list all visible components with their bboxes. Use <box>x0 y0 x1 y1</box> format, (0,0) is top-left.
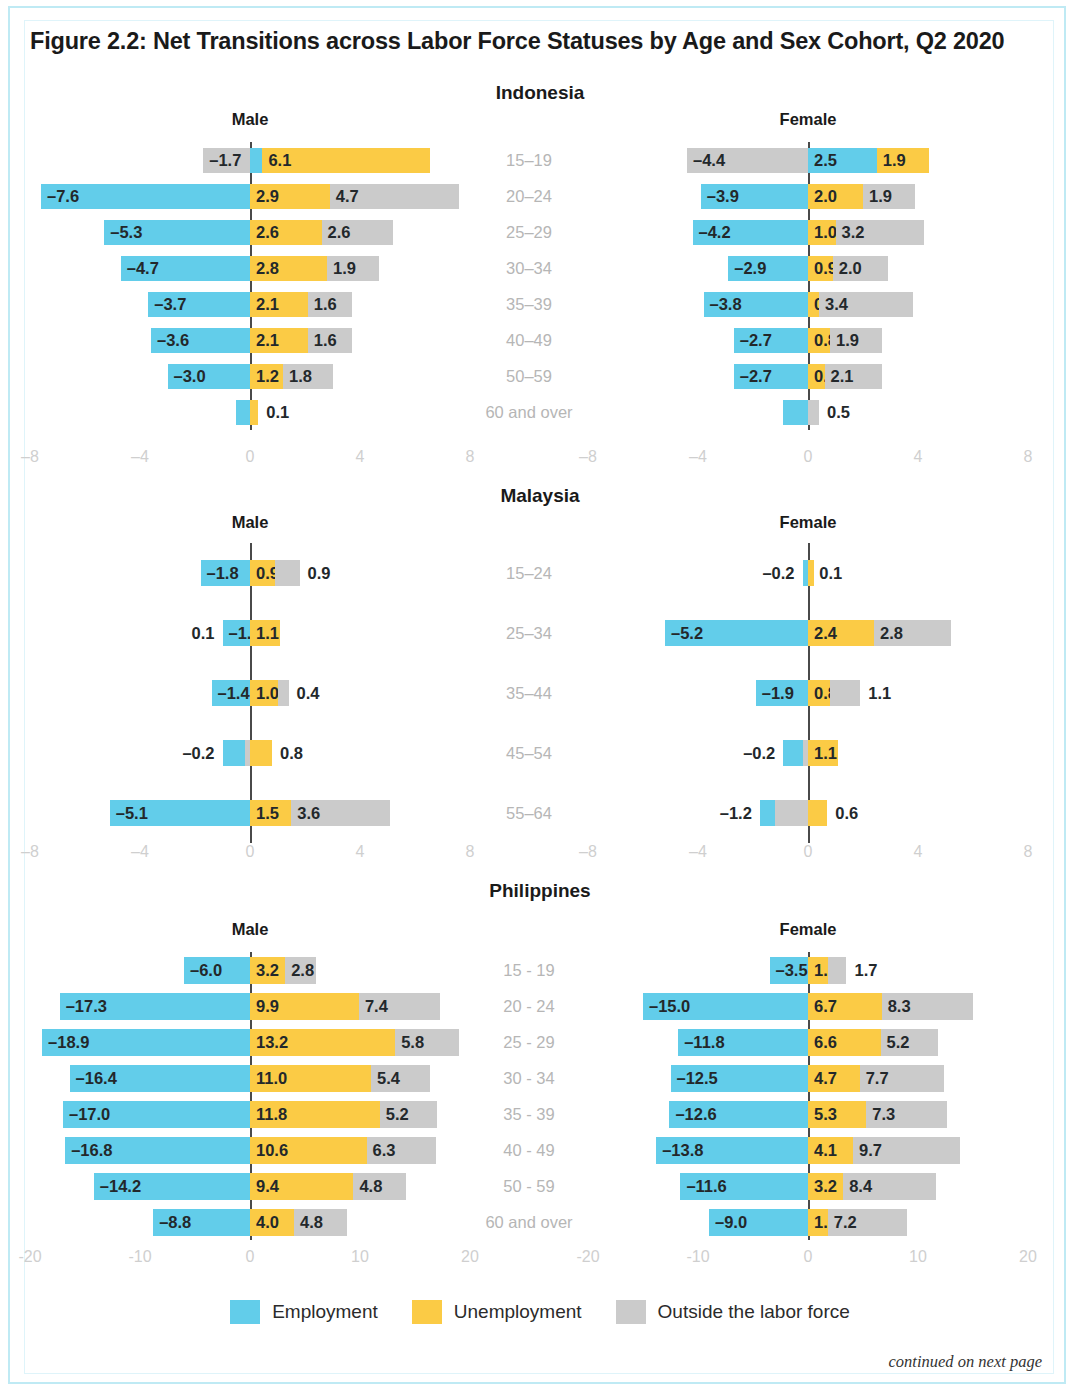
chart-legend: EmploymentUnemploymentOutside the labor … <box>0 1300 1080 1324</box>
bar-segment-emp: –4.2 <box>693 220 809 245</box>
bar-value-label: –16.8 <box>71 1142 112 1159</box>
x-axis-tick: –4 <box>131 843 149 861</box>
bar-value-label: –7.6 <box>47 188 79 205</box>
bar-row: –18.913.25.8 <box>30 1029 470 1056</box>
bar-segment-unemp: 6.7 <box>808 993 882 1020</box>
bar-segment-emp: –13.8 <box>656 1137 808 1164</box>
bar-value-label: 5.2 <box>887 1034 910 1051</box>
bar-value-label: 2.4 <box>814 625 837 642</box>
bar-row: –8.84.04.8 <box>30 1209 470 1236</box>
legend-label-emp: Employment <box>272 1301 378 1323</box>
bar-segment-unemp <box>250 740 272 766</box>
bar-value-label: 7.4 <box>365 998 388 1015</box>
cohort-label: 35 - 39 <box>439 1105 619 1124</box>
cohort-label: 20 - 24 <box>439 997 619 1016</box>
bar-segment-unemp: 10.6 <box>250 1137 367 1164</box>
bar-segment-olf: 2.1 <box>825 364 883 389</box>
bar-value-label: 10.6 <box>256 1142 288 1159</box>
cohort-label: 60 and over <box>439 403 619 422</box>
bar-segment-emp: –2.7 <box>734 328 808 353</box>
cohort-label: 40 - 49 <box>439 1141 619 1160</box>
x-axis-tick: –8 <box>579 843 597 861</box>
plot-area-male: –6.03.22.8–17.39.97.4–18.913.25.8–16.411… <box>30 952 470 1240</box>
bar-value-label: 3.6 <box>297 805 320 822</box>
cohort-label: 40–49 <box>439 331 619 350</box>
bar-value-label: 1.2 <box>256 368 279 385</box>
bar-segment-emp: –1.4 <box>212 680 251 706</box>
bar-row: –3.92.01.9 <box>588 184 1028 209</box>
bar-segment-unemp: 11.8 <box>250 1101 380 1128</box>
bar-row: –7.62.94.7 <box>30 184 470 209</box>
bar-value-label: 6.1 <box>268 152 291 169</box>
bar-segment-olf: 8.3 <box>882 993 973 1020</box>
bar-segment-emp: –14.2 <box>94 1173 250 1200</box>
bar-value-label: –18.9 <box>48 1034 89 1051</box>
x-axis-tick: –8 <box>579 448 597 466</box>
bar-segment-unemp: 0.6 <box>808 364 825 389</box>
cohort-label: 30 - 34 <box>439 1069 619 1088</box>
bar-value-label: –1.8 <box>207 565 239 582</box>
bar-segment-emp: –12.6 <box>669 1101 808 1128</box>
bar-value-label: –3.9 <box>707 188 739 205</box>
bar-segment-olf: 9.7 <box>853 1137 960 1164</box>
bar-value-label: –12.6 <box>675 1106 716 1123</box>
bar-value-label: 1.9 <box>869 188 892 205</box>
x-axis-tick: 0 <box>804 1248 813 1266</box>
bar-value-label: 2.8 <box>291 962 314 979</box>
cohort-label: 25–34 <box>439 624 619 643</box>
legend-item-unemp: Unemployment <box>412 1300 582 1324</box>
bar-segment-unemp: 0.9 <box>250 560 275 586</box>
bar-segment-emp: –6.0 <box>184 957 250 984</box>
bar-segment-olf <box>775 800 808 826</box>
bar-value-label: 2.0 <box>814 188 837 205</box>
bar-value-label: 1.5 <box>256 805 279 822</box>
bar-segment-olf: 5.2 <box>380 1101 437 1128</box>
bar-value-label: –1.9 <box>762 685 794 702</box>
bar-segment-olf <box>278 680 289 706</box>
bar-value-label: 11.8 <box>256 1106 287 1123</box>
bar-value-label: 1.1 <box>814 745 837 762</box>
bar-segment-unemp: 1.8 <box>808 1209 828 1236</box>
bar-segment-unemp <box>808 800 827 826</box>
bar-segment-emp: 2.5 <box>808 148 877 173</box>
bar-outside-label-right: 0.8 <box>280 745 303 762</box>
cohort-label: 55–64 <box>439 804 619 823</box>
x-axis-tick: –4 <box>689 448 707 466</box>
legend-item-emp: Employment <box>230 1300 378 1324</box>
bar-value-label: 6.7 <box>814 998 837 1015</box>
bar-value-label: –6.0 <box>190 962 222 979</box>
bar-segment-unemp: 1.1 <box>808 740 838 766</box>
bar-segment-emp: –2.9 <box>728 256 808 281</box>
cohort-label: 25–29 <box>439 223 619 242</box>
plot-area-female: –3.51.81.7–15.06.78.3–11.86.65.2–12.54.7… <box>588 952 1028 1240</box>
cohort-label: 15–19 <box>439 151 619 170</box>
bar-segment-emp: –5.3 <box>104 220 250 245</box>
bar-segment-emp: –18.9 <box>42 1029 250 1056</box>
bar-segment-unemp: 1.5 <box>250 800 291 826</box>
bar-row: –14.29.44.8 <box>30 1173 470 1200</box>
bar-value-label: 2.1 <box>256 332 279 349</box>
x-axis-tick: 0 <box>246 843 255 861</box>
bar-value-label: –3.7 <box>154 296 186 313</box>
bar-segment-emp: –3.7 <box>148 292 250 317</box>
bar-value-label: –2.9 <box>734 260 766 277</box>
bar-outside-label-right: 0.4 <box>297 685 320 702</box>
bar-row: –0.20.8 <box>30 740 470 766</box>
bar-segment-unemp: 2.8 <box>250 256 327 281</box>
bar-value-label: –5.1 <box>116 805 148 822</box>
x-axis-tick: 8 <box>466 843 475 861</box>
bar-row: –16.411.05.4 <box>30 1065 470 1092</box>
bar-segment-unemp: 1.0 <box>250 680 278 706</box>
bar-segment-unemp: 0.4 <box>808 292 819 317</box>
bar-outside-label-left: –0.2 <box>182 745 214 762</box>
bar-outside-label-right: 1.1 <box>868 685 891 702</box>
bar-row: –16.810.66.3 <box>30 1137 470 1164</box>
bar-value-label: 6.6 <box>814 1034 837 1051</box>
bar-segment-unemp: 2.9 <box>250 184 330 209</box>
bar-value-label: 8.3 <box>888 998 911 1015</box>
bar-row: –3.62.11.6 <box>30 328 470 353</box>
bar-outside-label-left: 0.1 <box>192 625 215 642</box>
bar-segment-olf: 2.8 <box>285 957 316 984</box>
bar-segment-olf: 1.9 <box>830 328 882 353</box>
bar-segment-olf <box>828 957 847 984</box>
